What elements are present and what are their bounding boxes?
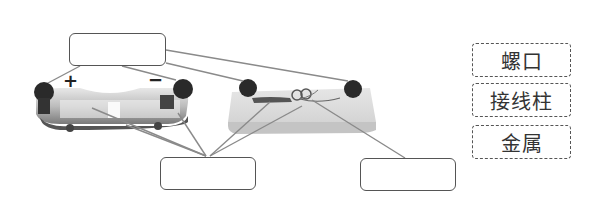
battery-right-post bbox=[173, 79, 193, 99]
bulb-left-post bbox=[239, 79, 257, 97]
answer-box-bottom-middle[interactable] bbox=[160, 157, 256, 190]
answer-box-top[interactable] bbox=[69, 33, 166, 66]
circuit-parts-diagram: + − 螺口 bbox=[0, 0, 602, 206]
word-bank-label: 金属 bbox=[501, 128, 543, 157]
word-bank-label: 接线柱 bbox=[490, 86, 553, 115]
bulb-right-post bbox=[344, 80, 362, 98]
answer-box-bottom-right[interactable] bbox=[360, 158, 456, 191]
word-bank-item-metal[interactable]: 金属 bbox=[472, 125, 571, 159]
word-bank-item-terminal-post[interactable]: 接线柱 bbox=[472, 83, 571, 117]
negative-sign: − bbox=[148, 69, 163, 90]
word-bank-label: 螺口 bbox=[501, 46, 543, 75]
word-bank-item-screw-mouth[interactable]: 螺口 bbox=[472, 43, 571, 77]
battery-holder-image bbox=[34, 79, 193, 132]
